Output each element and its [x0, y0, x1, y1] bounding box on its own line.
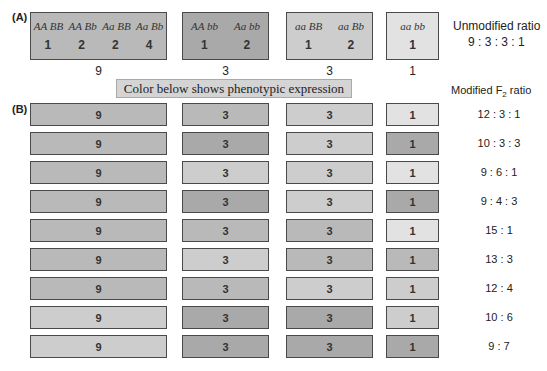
genotype-label: aa Bb — [338, 20, 364, 32]
phenotype-box: 9 — [30, 248, 167, 271]
phenotype-box: 1 — [386, 306, 439, 329]
phenotype-box: 9 — [30, 103, 167, 126]
phenotype-box: 1 — [386, 103, 439, 126]
genotype-label: Aa BB — [102, 20, 130, 32]
genotype-count: 1 — [305, 38, 312, 52]
phenotype-box: 1 — [386, 219, 439, 242]
genotype-count: 1 — [201, 38, 208, 52]
modified-ratio-suffix: ratio — [507, 84, 531, 96]
genotype-label: Aa bb — [234, 20, 260, 32]
genotype-group-box: AA bbAa bb12 — [182, 12, 269, 60]
phenotype-box: 3 — [286, 219, 373, 242]
genotype-group-box: aa BBaa Bb12 — [286, 12, 373, 60]
phenotype-box: 9 — [30, 306, 167, 329]
phenotype-box: 3 — [286, 161, 373, 184]
modified-ratio-value: 12 : 4 — [454, 282, 544, 294]
phenotype-box: 3 — [286, 132, 373, 155]
phenotype-box: 3 — [182, 306, 269, 329]
unmodified-ratio-title: Unmodified ratio — [453, 19, 540, 33]
genotype-row: AA bbAa bb — [183, 20, 268, 32]
genotype-count: 2 — [347, 38, 354, 52]
phenotype-box: 1 — [386, 161, 439, 184]
phenotype-box: 1 — [386, 132, 439, 155]
phenotype-box: 9 — [30, 335, 167, 358]
genotype-label: aa bb — [400, 20, 425, 32]
group-total: 3 — [182, 64, 269, 78]
genotype-count: 4 — [146, 38, 153, 52]
count-row: 1224 — [31, 38, 166, 52]
genotype-row: aa bb — [387, 20, 438, 32]
panel-b-label: (B) — [12, 103, 27, 115]
phenotype-box: 1 — [386, 190, 439, 213]
phenotype-box: 9 — [30, 132, 167, 155]
phenotype-box: 3 — [182, 132, 269, 155]
count-row: 12 — [183, 38, 268, 52]
genotype-count: 1 — [409, 38, 416, 52]
genotype-count: 2 — [243, 38, 250, 52]
modified-ratio-value: 9 : 7 — [454, 340, 544, 352]
phenotype-box: 9 — [30, 277, 167, 300]
phenotype-box: 3 — [286, 190, 373, 213]
modified-ratio-value: 12 : 3 : 1 — [454, 108, 544, 120]
modified-ratio-value: 10 : 6 — [454, 311, 544, 323]
phenotype-box: 1 — [386, 277, 439, 300]
phenotype-box: 1 — [386, 248, 439, 271]
phenotype-box: 3 — [182, 335, 269, 358]
genotype-count: 2 — [112, 38, 119, 52]
genotype-row: aa BBaa Bb — [287, 20, 372, 32]
group-total: 3 — [286, 64, 373, 78]
phenotype-box: 3 — [286, 248, 373, 271]
modified-ratio-title: Modified F2 ratio — [451, 84, 531, 99]
count-row: 1 — [387, 38, 438, 52]
phenotype-box: 3 — [182, 190, 269, 213]
genotype-count: 2 — [78, 38, 85, 52]
group-total: 9 — [30, 64, 167, 78]
phenotype-banner: Color below shows phenotypic expression — [116, 79, 352, 98]
phenotype-box: 1 — [386, 335, 439, 358]
modified-ratio-value: 9 : 4 : 3 — [454, 195, 544, 207]
genotype-label: aa BB — [295, 20, 322, 32]
genotype-label: AA BB — [34, 20, 63, 32]
modified-ratio-value: 10 : 3 : 3 — [454, 137, 544, 149]
phenotype-box: 3 — [182, 161, 269, 184]
genotype-group-box: aa bb1 — [386, 12, 439, 60]
phenotype-box: 9 — [30, 161, 167, 184]
phenotype-box: 3 — [286, 103, 373, 126]
genotype-group-box: AA BBAA BbAa BBAa Bb1224 — [30, 12, 167, 60]
genotype-label: Aa Bb — [136, 20, 163, 32]
modified-ratio-value: 15 : 1 — [454, 224, 544, 236]
modified-ratio-value: 9 : 6 : 1 — [454, 166, 544, 178]
phenotype-box: 3 — [182, 277, 269, 300]
phenotype-box: 9 — [30, 190, 167, 213]
genotype-label: AA bb — [191, 20, 218, 32]
genotype-label: AA Bb — [69, 20, 97, 32]
phenotype-box: 3 — [182, 248, 269, 271]
genotype-row: AA BBAA BbAa BBAa Bb — [31, 20, 166, 32]
panel-a-label: (A) — [12, 11, 27, 23]
phenotype-box: 3 — [286, 335, 373, 358]
phenotype-box: 3 — [286, 277, 373, 300]
unmodified-ratio-value: 9 : 3 : 3 : 1 — [468, 35, 525, 49]
phenotype-box: 3 — [286, 306, 373, 329]
group-total: 1 — [386, 64, 439, 78]
count-row: 12 — [287, 38, 372, 52]
phenotype-box: 3 — [182, 219, 269, 242]
genotype-count: 1 — [45, 38, 52, 52]
modified-ratio-value: 13 : 3 — [454, 253, 544, 265]
modified-ratio-prefix: Modified F — [451, 84, 502, 96]
phenotype-box: 3 — [182, 103, 269, 126]
phenotype-box: 9 — [30, 219, 167, 242]
